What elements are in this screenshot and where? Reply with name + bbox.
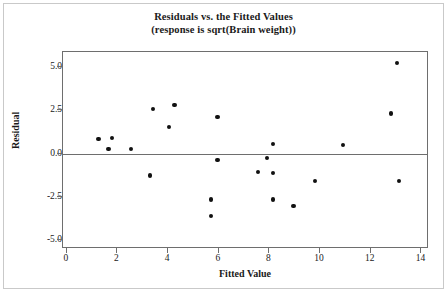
chart-title-block: Residuals vs. the Fitted Values (respons… <box>0 10 447 36</box>
scatter-point <box>271 142 275 146</box>
x-tick-label: 8 <box>253 253 283 263</box>
scatter-point <box>271 197 275 201</box>
scatter-point <box>167 125 171 129</box>
scatter-point <box>96 137 100 141</box>
scatter-point <box>395 61 399 65</box>
scatter-point <box>215 158 219 162</box>
scatter-point <box>256 170 260 174</box>
x-tick-label: 0 <box>51 253 81 263</box>
scatter-point <box>151 107 155 111</box>
scatter-point <box>265 156 269 160</box>
x-tick-label: 10 <box>304 253 334 263</box>
scatter-point <box>341 143 345 147</box>
scatter-point <box>215 115 219 119</box>
scatter-point <box>209 214 213 218</box>
scatter-point <box>291 204 295 208</box>
chart-title: Residuals vs. the Fitted Values <box>0 10 447 23</box>
scatter-point <box>148 173 152 177</box>
x-tick-label: 4 <box>152 253 182 263</box>
scatter-point <box>209 197 213 201</box>
x-tick-label: 12 <box>355 253 385 263</box>
scatter-point <box>397 179 401 183</box>
residual-plot-figure: Residuals vs. the Fitted Values (respons… <box>0 0 447 292</box>
zero-reference-line <box>63 154 427 155</box>
scatter-point <box>129 147 133 151</box>
x-axis-ticks: 02468101214 <box>62 248 428 268</box>
plot-area <box>62 51 428 248</box>
x-axis-label: Fitted Value <box>62 268 428 279</box>
chart-subtitle: (response is sqrt(Brain weight)) <box>0 23 447 36</box>
scatter-point <box>172 103 176 107</box>
scatter-point <box>271 171 275 175</box>
y-axis-label: Residual <box>10 112 21 149</box>
y-axis-ticks: 5.02.50.0-2.5-5.0 <box>27 51 62 248</box>
scatter-point <box>106 147 110 151</box>
x-tick-label: 14 <box>405 253 435 263</box>
scatter-point <box>110 136 114 140</box>
scatter-point <box>389 111 393 115</box>
x-tick-label: 6 <box>203 253 233 263</box>
scatter-point <box>313 179 317 183</box>
x-tick-label: 2 <box>101 253 131 263</box>
